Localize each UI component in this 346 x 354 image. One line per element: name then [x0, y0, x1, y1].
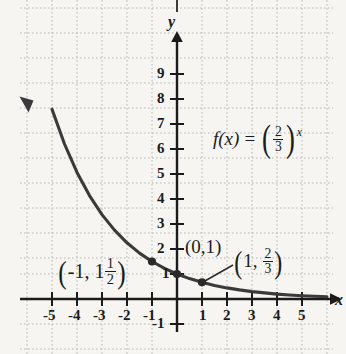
y-tick-label-9: 9 — [157, 66, 165, 81]
paren-open-icon: ( — [234, 248, 242, 279]
point-marker-neg1 — [148, 257, 156, 265]
point-y-numerator: 2 — [263, 247, 273, 261]
y-tick-label-3: 3 — [157, 216, 165, 231]
y-tick-label-6: 6 — [157, 141, 165, 156]
y-tick-label-2: 2 — [157, 241, 165, 256]
y-tick-label-5: 5 — [157, 166, 165, 181]
paren-close-icon: ) — [275, 248, 283, 279]
y-axis-label: y — [168, 14, 175, 30]
x-tick-label--4: -4 — [68, 308, 81, 323]
y-axis — [171, 31, 183, 332]
point-y-whole: 1 — [94, 260, 104, 282]
point-y-numerator: 1 — [105, 256, 116, 271]
point-marker-one — [198, 278, 206, 286]
function-lhs: f(x) — [213, 128, 239, 149]
point-y-denominator: 2 — [105, 271, 116, 287]
y-tick-label-8: 8 — [157, 91, 165, 106]
paren-close-icon: ) — [286, 119, 295, 157]
y-tick-label-4: 4 — [157, 191, 165, 206]
coordinate-plane — [0, 0, 346, 354]
base-denominator: 3 — [273, 139, 283, 154]
comma-separator: , — [84, 260, 94, 282]
x-axis-label: x — [335, 292, 343, 308]
x-tick-label-5: 5 — [298, 308, 306, 323]
x-tick-label-2: 2 — [223, 308, 231, 323]
function-exponent: x — [297, 126, 302, 139]
y-tick-label--1: -1 — [152, 316, 165, 331]
graph-figure: y x -5 -4 -3 -2 -1 1 2 3 4 5 9 8 7 6 5 4… — [0, 0, 346, 354]
point-y-fraction: 23 — [263, 247, 273, 276]
comma-separator: , — [253, 250, 263, 271]
paren-close-icon: ) — [117, 256, 125, 288]
point-x-value: -1 — [68, 260, 85, 282]
point-x-value: 1 — [243, 250, 253, 271]
paren-open-icon: ( — [262, 119, 271, 157]
function-base-fraction: 23 — [273, 125, 283, 154]
leader-line — [204, 265, 233, 282]
point-y-fraction: 12 — [105, 256, 116, 286]
paren-open-icon: ( — [58, 256, 66, 288]
x-tick-label--2: -2 — [118, 308, 131, 323]
x-tick-label--5: -5 — [43, 308, 56, 323]
y-tick-label-1: 1 — [162, 266, 170, 281]
x-tick-label-1: 1 — [199, 308, 207, 323]
point-label-neg-one: (-1, 112) — [57, 256, 127, 289]
function-equals: = — [244, 128, 255, 149]
point-label-zero: (0,1) — [185, 237, 221, 256]
point-label-one: (1, 23) — [233, 247, 284, 279]
x-tick-label-3: 3 — [248, 308, 256, 323]
point-y-denominator: 3 — [263, 261, 273, 276]
function-equation-label: f(x)=(23)x — [213, 119, 302, 157]
x-tick-label-4: 4 — [273, 308, 281, 323]
point-marker-zero — [173, 270, 181, 278]
x-tick-label--3: -3 — [93, 308, 106, 323]
y-tick-label-7: 7 — [157, 116, 165, 131]
base-numerator: 2 — [273, 125, 283, 139]
